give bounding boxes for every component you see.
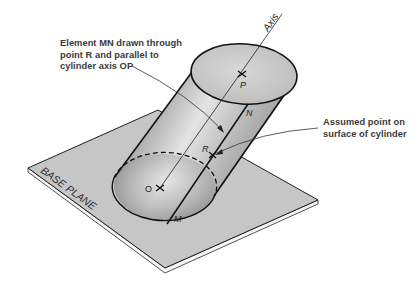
point-r-label: R [202, 144, 209, 154]
callout-assumed-point: Assumed point on surface of cylinder [323, 117, 407, 140]
point-p-label: P [240, 80, 246, 90]
oblique-cylinder-diagram: BASE PLANE Axis P [0, 0, 418, 287]
axis-label: Axis [260, 11, 280, 34]
point-m-label: M [174, 214, 182, 224]
point-n-label: N [246, 108, 253, 118]
point-o-label: O [145, 184, 152, 194]
callout-element-mn: Element MN drawn through point R and par… [60, 38, 182, 73]
